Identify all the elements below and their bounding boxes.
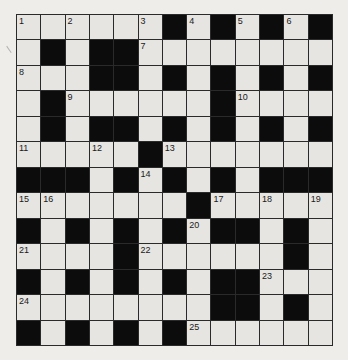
answer-cell[interactable]: [114, 91, 137, 115]
answer-cell[interactable]: 21: [17, 244, 40, 268]
answer-cell[interactable]: [90, 270, 113, 294]
answer-cell[interactable]: [66, 66, 89, 90]
answer-cell[interactable]: [163, 193, 186, 217]
answer-cell[interactable]: [309, 270, 332, 294]
answer-cell[interactable]: 3: [139, 15, 162, 39]
answer-cell[interactable]: [163, 91, 186, 115]
answer-cell[interactable]: [90, 193, 113, 217]
answer-cell[interactable]: [260, 321, 283, 345]
answer-cell[interactable]: [66, 117, 89, 141]
answer-cell[interactable]: [90, 91, 113, 115]
answer-cell[interactable]: [114, 295, 137, 319]
answer-cell[interactable]: [187, 117, 210, 141]
answer-cell[interactable]: [17, 40, 40, 64]
answer-cell[interactable]: [187, 66, 210, 90]
answer-cell[interactable]: [187, 244, 210, 268]
answer-cell[interactable]: [211, 244, 234, 268]
answer-cell[interactable]: [66, 142, 89, 166]
answer-cell[interactable]: 11: [17, 142, 40, 166]
answer-cell[interactable]: [66, 295, 89, 319]
answer-cell[interactable]: [260, 91, 283, 115]
answer-cell[interactable]: [309, 40, 332, 64]
answer-cell[interactable]: 12: [90, 142, 113, 166]
answer-cell[interactable]: [139, 193, 162, 217]
answer-cell[interactable]: [309, 142, 332, 166]
answer-cell[interactable]: [90, 219, 113, 243]
answer-cell[interactable]: [236, 168, 259, 192]
answer-cell[interactable]: [260, 244, 283, 268]
answer-cell[interactable]: [260, 40, 283, 64]
answer-cell[interactable]: [41, 15, 64, 39]
answer-cell[interactable]: [211, 142, 234, 166]
answer-cell[interactable]: [284, 193, 307, 217]
answer-cell[interactable]: [139, 66, 162, 90]
answer-cell[interactable]: [284, 91, 307, 115]
answer-cell[interactable]: [187, 142, 210, 166]
answer-cell[interactable]: 1: [17, 15, 40, 39]
answer-cell[interactable]: [260, 219, 283, 243]
answer-cell[interactable]: [41, 244, 64, 268]
answer-cell[interactable]: [90, 168, 113, 192]
answer-cell[interactable]: 4: [187, 15, 210, 39]
answer-cell[interactable]: [284, 142, 307, 166]
answer-cell[interactable]: [284, 270, 307, 294]
answer-cell[interactable]: 19: [309, 193, 332, 217]
answer-cell[interactable]: [236, 321, 259, 345]
answer-cell[interactable]: [187, 168, 210, 192]
answer-cell[interactable]: 2: [66, 15, 89, 39]
answer-cell[interactable]: [163, 295, 186, 319]
answer-cell[interactable]: [163, 40, 186, 64]
answer-cell[interactable]: 23: [260, 270, 283, 294]
answer-cell[interactable]: 9: [66, 91, 89, 115]
answer-cell[interactable]: [41, 219, 64, 243]
answer-cell[interactable]: [236, 142, 259, 166]
answer-cell[interactable]: [90, 244, 113, 268]
answer-cell[interactable]: 16: [41, 193, 64, 217]
answer-cell[interactable]: [41, 295, 64, 319]
answer-cell[interactable]: [17, 117, 40, 141]
answer-cell[interactable]: [260, 295, 283, 319]
answer-cell[interactable]: 17: [211, 193, 234, 217]
answer-cell[interactable]: [236, 117, 259, 141]
answer-cell[interactable]: [236, 40, 259, 64]
answer-cell[interactable]: 20: [187, 219, 210, 243]
answer-cell[interactable]: [41, 66, 64, 90]
answer-cell[interactable]: [187, 91, 210, 115]
answer-cell[interactable]: [41, 321, 64, 345]
answer-cell[interactable]: [236, 66, 259, 90]
answer-cell[interactable]: [139, 117, 162, 141]
answer-cell[interactable]: 24: [17, 295, 40, 319]
answer-cell[interactable]: 8: [17, 66, 40, 90]
answer-cell[interactable]: [66, 193, 89, 217]
answer-cell[interactable]: [211, 321, 234, 345]
answer-cell[interactable]: [66, 244, 89, 268]
answer-cell[interactable]: 13: [163, 142, 186, 166]
answer-cell[interactable]: 22: [139, 244, 162, 268]
answer-cell[interactable]: [90, 15, 113, 39]
answer-cell[interactable]: [309, 244, 332, 268]
answer-cell[interactable]: [236, 193, 259, 217]
answer-cell[interactable]: [284, 40, 307, 64]
answer-cell[interactable]: [139, 295, 162, 319]
answer-cell[interactable]: [90, 295, 113, 319]
answer-cell[interactable]: 25: [187, 321, 210, 345]
answer-cell[interactable]: [187, 295, 210, 319]
answer-cell[interactable]: [284, 321, 307, 345]
answer-cell[interactable]: 10: [236, 91, 259, 115]
answer-cell[interactable]: [163, 244, 186, 268]
answer-cell[interactable]: [17, 91, 40, 115]
answer-cell[interactable]: 5: [236, 15, 259, 39]
answer-cell[interactable]: 15: [17, 193, 40, 217]
answer-cell[interactable]: [260, 142, 283, 166]
answer-cell[interactable]: [284, 117, 307, 141]
answer-cell[interactable]: [309, 295, 332, 319]
answer-cell[interactable]: 7: [139, 40, 162, 64]
answer-cell[interactable]: 14: [139, 168, 162, 192]
answer-cell[interactable]: [139, 91, 162, 115]
answer-cell[interactable]: [114, 193, 137, 217]
answer-cell[interactable]: [139, 270, 162, 294]
answer-cell[interactable]: [41, 270, 64, 294]
answer-cell[interactable]: [139, 219, 162, 243]
answer-cell[interactable]: [187, 40, 210, 64]
answer-cell[interactable]: [309, 91, 332, 115]
